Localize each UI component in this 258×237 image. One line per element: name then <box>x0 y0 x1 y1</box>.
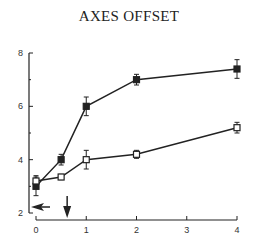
x-tick-label: 0 <box>33 225 38 235</box>
filled-square-marker <box>58 157 64 163</box>
x-tick-label: 4 <box>234 225 239 235</box>
x-tick-label: 3 <box>184 225 189 235</box>
y-tick-label: 8 <box>18 48 23 58</box>
down-arrow-icon <box>63 206 71 218</box>
x-tick-label: 1 <box>84 225 89 235</box>
open-square-marker <box>134 151 140 157</box>
y-tick-label: 2 <box>18 208 23 218</box>
open-square-marker <box>234 125 240 131</box>
y-tick-label: 4 <box>18 155 23 165</box>
filled-square-marker <box>134 77 140 83</box>
y-tick-label: 6 <box>18 101 23 111</box>
open-square-marker <box>83 157 89 163</box>
filled-square-marker <box>83 103 89 109</box>
x-tick-label: 2 <box>134 225 139 235</box>
line-chart: 246801234 <box>0 0 258 237</box>
open-square-marker <box>58 174 64 180</box>
filled-square-marker <box>234 66 240 72</box>
open-square-marker <box>33 178 39 184</box>
series-line <box>36 69 237 186</box>
